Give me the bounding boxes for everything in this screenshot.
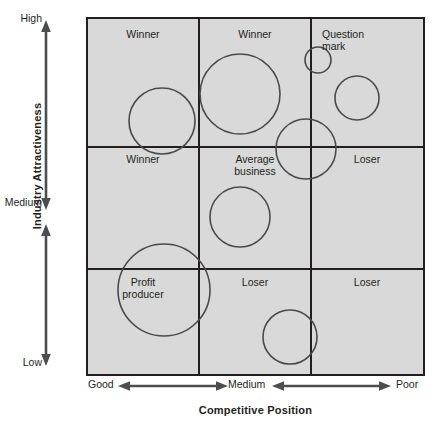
- matrix-grid: Winner Winner Question mark Winner Avera…: [86, 17, 425, 376]
- bubble: [210, 187, 270, 247]
- grid-vline-2: [310, 19, 312, 374]
- bubble: [335, 76, 379, 120]
- cell-label-low-poor: Loser: [312, 276, 422, 288]
- bubble: [200, 54, 280, 134]
- cell-label-low-good: Profit producer: [88, 276, 198, 300]
- x-axis-arrows: [86, 378, 425, 400]
- cell-label-high-good: Winner: [88, 28, 198, 40]
- cell-label-medium-good: Winner: [88, 153, 198, 165]
- cell-label-medium-poor: Loser: [312, 153, 422, 165]
- bubble: [263, 310, 317, 364]
- x-axis-title: Competitive Position: [86, 404, 425, 416]
- grid-hline-2: [88, 268, 423, 270]
- cell-label-medium-medium: Average business: [200, 153, 310, 177]
- matrix-diagram: Industry Attractiveness High Medium Low: [0, 0, 444, 446]
- bubble: [129, 88, 195, 154]
- bubble-layer: [88, 19, 423, 374]
- cell-label-high-poor: Question mark: [322, 28, 422, 52]
- cell-label-low-medium: Loser: [200, 276, 310, 288]
- y-axis-arrows: [36, 16, 56, 376]
- grid-vline-1: [198, 19, 200, 374]
- grid-hline-1: [88, 146, 423, 148]
- cell-label-high-medium: Winner: [200, 28, 310, 40]
